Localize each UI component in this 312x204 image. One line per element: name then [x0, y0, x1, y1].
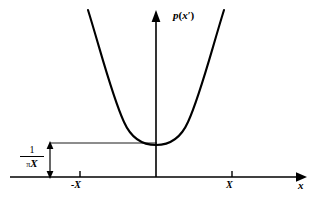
parabola-figure: p(x′) x -X X 1 πX	[0, 0, 312, 204]
y-axis-label-close-paren: )	[190, 9, 194, 21]
plot-canvas	[0, 0, 312, 204]
x-axis-label: x	[298, 180, 304, 191]
minimum-value-label: 1 πX	[16, 145, 48, 170]
x-tick-label-negative: -X	[71, 180, 81, 190]
denominator-variable: X	[30, 157, 37, 169]
fraction-numerator: 1	[16, 145, 48, 156]
fraction-denominator: πX	[16, 157, 48, 170]
y-axis-arrowhead	[152, 10, 161, 22]
y-axis-label: p(x′)	[173, 10, 194, 21]
x-tick-label-positive: X	[226, 180, 233, 190]
